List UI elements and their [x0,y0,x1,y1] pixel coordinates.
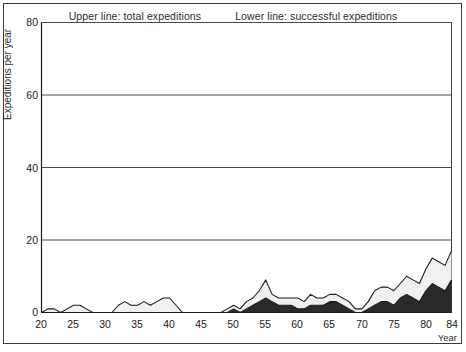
chart-figure: Upper line: total expeditions Lower line… [0,0,466,352]
plot-area [0,0,466,352]
